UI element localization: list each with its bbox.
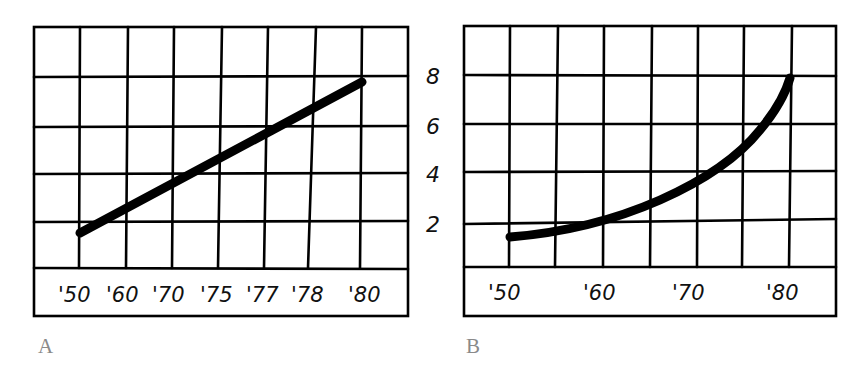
x-tick-label: '77 — [246, 283, 279, 307]
grid-line — [650, 26, 652, 267]
grid-line — [34, 173, 408, 174]
y-tick-label: 6 — [426, 114, 440, 139]
figure: '50 '60 '70 '75 '77 '78 '80 8 6 4 2 — [0, 0, 864, 368]
grid-line — [126, 27, 128, 268]
y-tick-label: 8 — [426, 64, 440, 89]
chart-a-x-axis-labels: '50 '60 '70 '75 '77 '78 '80 — [58, 283, 381, 307]
y-tick-label: 2 — [426, 212, 440, 237]
grid-line — [218, 27, 222, 268]
grid-line — [308, 27, 316, 268]
grid-line — [603, 26, 604, 267]
grid-line — [360, 27, 362, 268]
x-tick-label: '60 — [583, 281, 616, 305]
chart-a: '50 '60 '70 '75 '77 '78 '80 — [34, 27, 408, 316]
chart-b-x-axis-labels: '50 '60 '70 '80 — [488, 281, 799, 305]
grid-line — [697, 26, 698, 267]
grid-line — [509, 26, 510, 267]
chart-b-grid — [464, 26, 836, 316]
chart-a-grid — [34, 27, 408, 316]
label-band-line — [34, 268, 408, 269]
x-tick-label: '78 — [291, 283, 324, 307]
grid-line — [464, 75, 836, 76]
x-tick-label: '80 — [766, 281, 799, 305]
grid-line — [172, 27, 174, 268]
x-tick-label: '70 — [672, 281, 705, 305]
grid-line — [789, 26, 792, 267]
chart-b: '50 '60 '70 '80 — [464, 26, 836, 316]
x-tick-label: '70 — [152, 283, 185, 307]
x-tick-label: '50 — [488, 281, 521, 305]
y-tick-label: 4 — [426, 162, 440, 187]
grid-line — [34, 221, 408, 222]
grid-line — [264, 27, 268, 268]
x-tick-label: '75 — [200, 283, 233, 307]
caption-b: B — [466, 334, 480, 358]
y-axis-labels: 8 6 4 2 — [426, 64, 440, 237]
x-tick-label: '60 — [106, 283, 139, 307]
caption-a: A — [38, 334, 54, 358]
x-tick-label: '50 — [58, 283, 91, 307]
x-tick-label: '80 — [348, 283, 381, 307]
